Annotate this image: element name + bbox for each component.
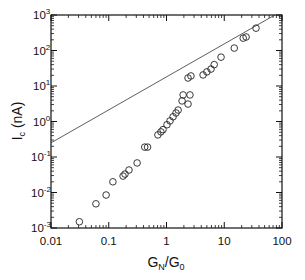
data-point bbox=[231, 45, 238, 52]
y-tick-label: 103 bbox=[33, 7, 51, 21]
data-point bbox=[76, 218, 83, 225]
data-point bbox=[218, 54, 225, 61]
chart: 0.01 0.1 1 10 100 10-3 10-2 10-1 100 101… bbox=[0, 0, 305, 280]
reference-line-segment bbox=[51, 15, 275, 143]
reference-line bbox=[51, 15, 275, 143]
y-tick-label: 101 bbox=[33, 78, 51, 92]
data-point bbox=[122, 171, 129, 178]
data-points bbox=[76, 25, 259, 225]
y-tick-label: 10-1 bbox=[31, 149, 51, 163]
data-point bbox=[180, 92, 187, 99]
data-point bbox=[179, 98, 186, 105]
x-tick-label: 0.1 bbox=[101, 235, 117, 247]
y-axis-label: Ic (nA) bbox=[9, 102, 27, 141]
x-axis-label: GN/G0 bbox=[147, 254, 184, 272]
data-point bbox=[126, 167, 133, 174]
data-point bbox=[185, 101, 192, 108]
data-point bbox=[187, 92, 194, 99]
y-tick-labels: 10-3 10-2 10-1 100 101 102 103 bbox=[31, 7, 51, 234]
y-tick-label: 100 bbox=[33, 114, 51, 128]
data-point bbox=[110, 179, 117, 186]
x-tick-label: 1 bbox=[163, 235, 169, 247]
data-point bbox=[211, 61, 218, 68]
y-tick-label: 10-2 bbox=[31, 185, 51, 199]
data-point bbox=[134, 160, 141, 167]
x-tick-label: 10 bbox=[218, 235, 231, 247]
data-point bbox=[93, 201, 100, 208]
x-tick-label: 100 bbox=[272, 235, 291, 247]
x-tick-label: 0.01 bbox=[40, 235, 62, 247]
y-tick-label: 102 bbox=[33, 43, 51, 57]
data-point bbox=[103, 192, 110, 199]
y-tick-label: 10-3 bbox=[31, 220, 51, 234]
data-point bbox=[120, 173, 127, 180]
